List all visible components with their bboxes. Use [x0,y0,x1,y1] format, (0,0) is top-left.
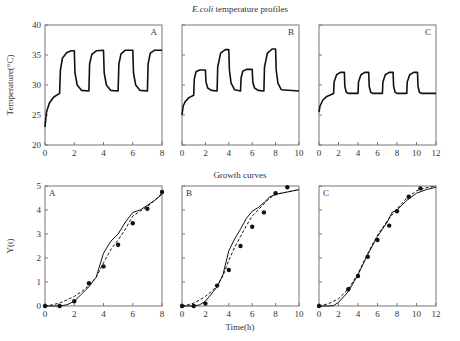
x-tick-label: 10 [412,309,422,319]
data-point [227,268,231,272]
dashed-model-line [319,186,436,306]
panel-letter: C [425,27,431,37]
y-tick-label: 0 [37,301,42,311]
temperature-panel-c: 024681012C [317,25,441,158]
temperature-line [182,49,299,115]
bottom-row-title: Growth curves [213,170,267,180]
data-point [87,281,91,285]
x-tick-label: 2 [203,309,208,319]
y-tick-label: 30 [32,80,42,90]
data-point [317,304,321,308]
x-tick-label: 4 [101,309,106,319]
y-tick-label: 1 [37,277,42,287]
x-tick-label: 4 [356,309,361,319]
bottom-x-axis-label: Time(h) [225,322,254,332]
x-tick-label: 8 [273,309,278,319]
data-point [395,209,399,213]
panel-letter: C [323,188,329,198]
data-point [101,264,105,268]
x-tick-label: 12 [432,148,441,158]
data-point [238,244,242,248]
data-point [346,287,350,291]
axes-frame [45,25,162,145]
figure: E.coli temperature profiles Growth curve… [0,0,460,341]
temperature-line [319,72,436,112]
x-tick-label: 0 [317,309,322,319]
y-tick-label: 25 [32,110,42,120]
x-tick-label: 6 [375,148,380,158]
dashed-model-line [45,193,162,306]
axes-frame [319,186,436,306]
x-tick-label: 4 [356,148,361,158]
x-tick-label: 8 [160,309,165,319]
solid-model-line [319,187,436,306]
panel-letter: B [186,188,192,198]
x-tick-label: 12 [432,309,441,319]
temperature-line [45,50,162,127]
x-tick-label: 2 [72,148,77,158]
data-point [116,243,120,247]
x-tick-label: 6 [131,309,136,319]
data-point [366,255,370,259]
data-point [375,238,379,242]
x-tick-label: 10 [412,148,422,158]
data-point [131,221,135,225]
panel-letter: A [49,188,56,198]
data-point [43,304,47,308]
data-point [387,223,391,227]
x-tick-label: 8 [395,309,400,319]
x-tick-label: 8 [273,148,278,158]
data-point [273,191,277,195]
data-point [407,195,411,199]
data-point [262,210,266,214]
x-tick-label: 2 [203,148,208,158]
y-tick-label: 4 [37,205,42,215]
growth-panel-a: 02468012345A [37,181,165,319]
data-point [250,225,254,229]
temperature-panel-a: 024682025303540A [32,20,165,158]
data-point [203,301,207,305]
x-tick-label: 4 [227,309,232,319]
y-tick-label: 3 [37,229,42,239]
data-point [192,304,196,308]
x-tick-label: 2 [72,309,77,319]
x-tick-label: 6 [250,148,255,158]
top-y-axis-label: Temperature(°C) [5,55,15,116]
x-tick-label: 0 [317,148,322,158]
bottom-y-axis-label: Y(t) [5,239,15,254]
x-tick-label: 6 [375,309,380,319]
x-tick-label: 8 [160,148,165,158]
y-tick-label: 20 [32,140,42,150]
data-point [57,304,61,308]
y-tick-label: 5 [37,181,42,191]
data-point [160,190,164,194]
x-tick-label: 10 [295,148,305,158]
data-point [145,207,149,211]
temperature-panel-b: 0246810B [180,25,304,158]
x-tick-label: 0 [180,148,185,158]
panel-letter: A [151,27,158,37]
axes-frame [45,186,162,306]
x-tick-label: 4 [227,148,232,158]
y-tick-label: 40 [32,20,42,30]
data-point [285,185,289,189]
y-tick-label: 35 [32,50,42,60]
data-point [356,274,360,278]
data-point [72,299,76,303]
y-tick-label: 2 [37,253,42,263]
data-point [215,283,219,287]
x-tick-label: 6 [250,309,255,319]
x-tick-label: 8 [395,148,400,158]
x-tick-label: 2 [336,148,341,158]
growth-panel-b: 0246810B [180,185,304,319]
top-row-title: E.coli temperature profiles [191,4,289,14]
data-point [180,304,184,308]
x-tick-label: 2 [336,309,341,319]
solid-model-line [45,194,162,306]
panel-letter: B [288,27,294,37]
x-tick-label: 10 [295,309,305,319]
x-tick-label: 6 [131,148,136,158]
data-point [418,186,422,190]
x-tick-label: 0 [180,309,185,319]
x-tick-label: 0 [43,148,48,158]
